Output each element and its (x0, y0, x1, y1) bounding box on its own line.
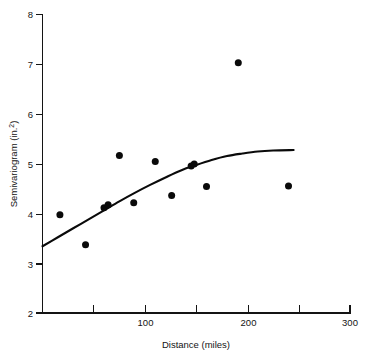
data-point (285, 182, 292, 189)
y-axis-title-base: Semivariogram (in. (8, 128, 19, 208)
scatter-plot-canvas: 8 7 6 5 4 3 2 100 200 300 Dist (0, 0, 374, 361)
y-tick-label-4: 4 (28, 209, 33, 220)
semivariogram-chart-figure: 8 7 6 5 4 3 2 100 200 300 Dist (0, 0, 374, 361)
y-axis-tick-labels: 8 7 6 5 4 3 2 (28, 9, 33, 319)
y-tick-label-3: 3 (28, 259, 33, 270)
data-point (191, 161, 198, 168)
data-point (130, 199, 137, 206)
y-tick-label-2: 2 (28, 308, 33, 319)
y-axis-title-close: ) (8, 121, 19, 124)
x-axis-ticks (94, 305, 300, 313)
fitted-curve-group (43, 150, 294, 246)
fitted-semivariogram-curve (43, 150, 294, 246)
y-tick-label-8: 8 (28, 9, 33, 20)
y-axis-title: Semivariogram (in.2) (8, 121, 19, 208)
x-tick-label-300: 300 (342, 317, 358, 328)
data-point (116, 152, 123, 159)
data-points-group (56, 59, 292, 248)
data-point (105, 201, 112, 208)
y-axis-ticks (36, 15, 43, 314)
data-point (152, 158, 159, 165)
y-tick-label-6: 6 (28, 109, 33, 120)
data-point (82, 241, 89, 248)
y-tick-label-7: 7 (28, 59, 33, 70)
data-point (168, 192, 175, 199)
x-tick-label-100: 100 (138, 317, 154, 328)
data-point (235, 59, 242, 66)
data-point (203, 183, 210, 190)
x-axis-title: Distance (miles) (162, 339, 230, 350)
data-point (56, 211, 63, 218)
x-tick-label-200: 200 (241, 317, 257, 328)
x-axis-tick-labels: 100 200 300 (138, 317, 358, 328)
y-tick-label-5: 5 (28, 159, 33, 170)
